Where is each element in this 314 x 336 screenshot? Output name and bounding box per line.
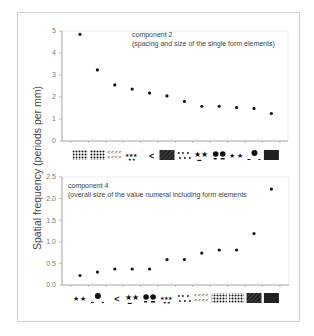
data-point: [148, 91, 151, 94]
data-point: [235, 248, 238, 251]
svg-text:★★: ★★: [163, 300, 171, 305]
pattern-sample: ★★▬: [194, 150, 208, 162]
data-point: [270, 187, 273, 190]
bottom-pattern-samples: ★ ★`<★★▬★★★★★<<<<<<<<: [73, 292, 279, 305]
svg-text:▬: ▬: [128, 300, 132, 305]
pattern-sample: [264, 150, 279, 160]
svg-text:<: <: [149, 151, 154, 161]
pattern-sample: [90, 150, 105, 160]
svg-text:<: <: [107, 154, 110, 160]
svg-text:0: 0: [52, 137, 56, 144]
svg-text:★ ★: ★ ★: [73, 295, 87, 302]
top-y-ticks: 012345: [52, 27, 62, 144]
pattern-sample: [264, 293, 279, 303]
data-point: [78, 33, 81, 36]
pattern-sample: ★ ★: [73, 295, 87, 302]
svg-text:1.5: 1.5: [46, 217, 56, 224]
pattern-sample: ★ ★: [229, 152, 243, 159]
pattern-sample: `<: [108, 293, 119, 304]
data-point: [78, 274, 81, 277]
data-point: [96, 270, 99, 273]
pattern-sample: [212, 293, 227, 303]
data-point: [148, 267, 151, 270]
data-point: [113, 267, 116, 270]
data-point: [165, 258, 168, 261]
data-point: [235, 106, 238, 109]
data-point: [183, 100, 186, 103]
pattern-sample: [91, 293, 104, 303]
bottom-chart: 0.00.51.01.52.02.5 component 4 (overall …: [46, 173, 289, 305]
top-chart-title: component 2: [132, 31, 173, 39]
data-point: [270, 112, 273, 115]
svg-text:<: <: [114, 294, 119, 304]
svg-text:<: <: [205, 297, 208, 303]
data-point: [131, 87, 134, 90]
top-plot-area: [62, 31, 288, 141]
pattern-sample: ★★★★★: [160, 295, 173, 305]
svg-text:4: 4: [52, 49, 56, 56]
svg-text:<: <: [111, 154, 114, 160]
pattern-sample: [247, 293, 262, 303]
svg-text:1.0: 1.0: [46, 238, 56, 245]
bottom-y-ticks: 0.00.51.01.52.02.5: [46, 173, 62, 288]
data-point: [200, 105, 203, 108]
svg-text:`: `: [108, 293, 110, 298]
svg-text:3: 3: [52, 71, 56, 78]
data-point: [218, 105, 221, 108]
pattern-sample: ★★★★★: [125, 152, 138, 162]
pattern-sample: <<<<<<<<: [194, 292, 208, 303]
bottom-data-points: [78, 187, 273, 277]
svg-text:1: 1: [52, 115, 56, 122]
svg-text:<: <: [194, 297, 197, 303]
data-point: [183, 258, 186, 261]
svg-text:2.0: 2.0: [46, 195, 56, 202]
pattern-sample: ★★▬: [125, 293, 139, 305]
data-point: [200, 251, 203, 254]
data-point: [218, 248, 221, 251]
data-point: [252, 107, 255, 110]
data-point: [165, 94, 168, 97]
svg-text:★★: ★★: [128, 157, 136, 162]
svg-text:★ ★: ★ ★: [229, 152, 243, 159]
pattern-sample: `<: [143, 150, 154, 161]
svg-text:<: <: [198, 297, 201, 303]
pattern-sample: [178, 152, 191, 159]
pattern-sample: [178, 295, 191, 302]
pattern-sample: [229, 293, 244, 303]
bottom-chart-title: component 4: [68, 182, 109, 190]
data-point: [113, 83, 116, 86]
svg-text:5: 5: [52, 27, 56, 34]
data-point: [131, 267, 134, 270]
svg-text:0.5: 0.5: [46, 260, 56, 267]
svg-text:2: 2: [52, 93, 56, 100]
top-chart: 012345 component 2 (spacing and size of …: [52, 27, 288, 162]
pattern-sample: <<<<<<<<: [107, 149, 121, 160]
bottom-chart-subtitle: (overall size of the value numeral inclu…: [68, 191, 247, 199]
pattern-sample: [248, 150, 261, 160]
svg-text:<: <: [118, 154, 121, 160]
top-chart-subtitle: (spacing and size of the single form ele…: [132, 40, 275, 48]
pattern-sample: [160, 150, 175, 160]
svg-text:<: <: [115, 154, 118, 160]
pattern-sample: [73, 150, 88, 160]
data-point: [96, 68, 99, 71]
svg-text:2.5: 2.5: [46, 173, 56, 180]
data-point: [252, 232, 255, 235]
top-pattern-samples: <<<<<<<<★★★★★`<★★▬★ ★: [73, 149, 279, 162]
svg-text:`: `: [143, 150, 145, 155]
pattern-sample: [213, 151, 226, 159]
svg-text:0.0: 0.0: [46, 281, 56, 288]
svg-text:▬: ▬: [197, 157, 201, 162]
figure-canvas: 012345 component 2 (spacing and size of …: [0, 0, 314, 336]
svg-text:<: <: [202, 297, 205, 303]
pattern-sample: [143, 294, 156, 302]
